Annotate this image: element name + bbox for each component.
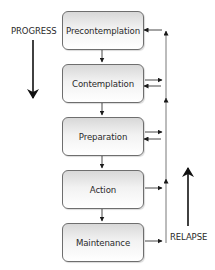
stage-box-precontemplation: Precontemplation bbox=[62, 11, 144, 50]
side-arrows bbox=[144, 30, 162, 241]
stage-label: Precontemplation bbox=[66, 26, 140, 36]
stage-label: Preparation bbox=[79, 132, 128, 142]
stage-label: Contemplation bbox=[72, 79, 134, 89]
stage-box-contemplation: Contemplation bbox=[62, 64, 144, 103]
stage-box-maintenance: Maintenance bbox=[62, 223, 144, 262]
stage-label: Action bbox=[90, 185, 116, 195]
stage-box-preparation: Preparation bbox=[62, 117, 144, 156]
stages-of-change-diagram: Precontemplation Contemplation Preparati… bbox=[0, 0, 215, 270]
stage-label: Maintenance bbox=[76, 238, 130, 248]
relapse-label: RELAPSE bbox=[170, 232, 207, 242]
progress-label: PROGRESS bbox=[11, 26, 57, 36]
stage-box-action: Action bbox=[62, 170, 144, 209]
